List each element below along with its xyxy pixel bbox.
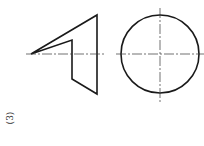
front-view-outline [31,15,97,94]
side-view [116,8,204,102]
front-view [26,15,104,94]
figure-label: (3) [2,110,18,126]
orthographic-drawing [0,0,204,146]
